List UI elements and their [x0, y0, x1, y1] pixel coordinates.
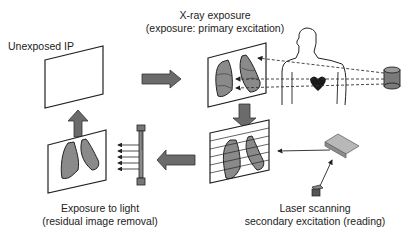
arrow-right-icon [142, 70, 181, 88]
laser-icon [312, 185, 323, 196]
fluorescent-lamp-icon [137, 125, 145, 185]
arrow-left-icon [157, 150, 195, 170]
lung-left-icon [216, 60, 233, 97]
unexposed-ip-plate [45, 46, 103, 108]
x-ray-tube-icon [384, 67, 400, 89]
arrow-up-icon [68, 110, 88, 137]
mirror-icon [325, 134, 359, 158]
ip-cycle-diagram [0, 0, 406, 241]
